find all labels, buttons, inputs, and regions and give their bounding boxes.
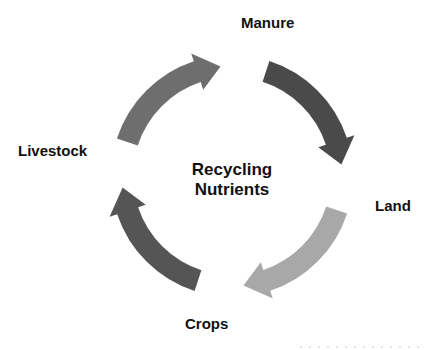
node-label-land: Land <box>375 198 411 213</box>
arrow-land-to-crops <box>244 207 348 299</box>
node-label-livestock: Livestock <box>18 143 87 158</box>
arrow-livestock-to-manure <box>117 54 221 146</box>
center-title-line-1: Recycling <box>192 160 272 180</box>
center-title: Recycling Nutrients <box>192 160 272 200</box>
scan-artifact <box>300 346 420 348</box>
node-label-crops: Crops <box>185 316 228 331</box>
arrow-manure-to-land <box>263 61 355 165</box>
center-title-line-2: Nutrients <box>192 180 272 200</box>
node-label-manure: Manure <box>241 15 294 30</box>
arrow-crops-to-livestock <box>110 188 202 292</box>
